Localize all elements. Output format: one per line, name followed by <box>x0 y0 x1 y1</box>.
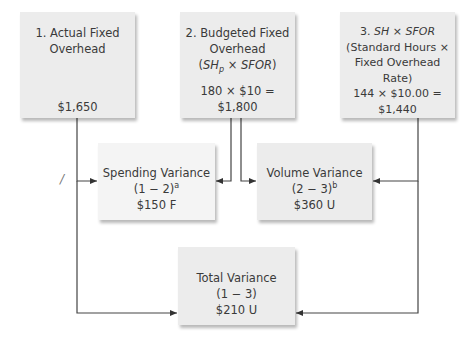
line-applied-to-volume <box>373 118 418 181</box>
line-budgeted-to-volume <box>241 118 256 181</box>
spending-title: Spending Variance <box>98 165 215 181</box>
slash-mark: / <box>60 172 64 186</box>
spending-formula: (1 − 2)a <box>98 181 215 197</box>
applied-title-sh: SH <box>374 25 389 38</box>
applied-desc-line1: (Standard Hours × <box>340 40 455 56</box>
volume-title: Volume Variance <box>257 165 372 181</box>
applied-amount: $1,440 <box>340 102 455 118</box>
budgeted-formula: (SHp × SFOR) <box>180 57 295 73</box>
actual-amount: $1,650 <box>20 99 135 115</box>
budgeted-formula-sh: SH <box>203 58 219 72</box>
applied-desc-line2: Fixed Overhead <box>340 55 455 71</box>
budgeted-title-line2: Overhead <box>180 41 295 57</box>
total-title: Total Variance <box>178 270 295 286</box>
applied-title-times: × <box>389 25 405 38</box>
volume-formula-text: (2 − 3) <box>292 182 333 196</box>
volume-amount: $360 U <box>257 197 372 213</box>
budgeted-calc: 180 × $10 = <box>180 83 295 99</box>
applied-title: 3. SH × SFOR <box>340 24 455 40</box>
total-variance-box: Total Variance (1 − 3) $210 U <box>178 247 295 325</box>
volume-footnote: b <box>332 181 337 190</box>
budgeted-amount: $1,800 <box>180 99 295 115</box>
actual-fixed-overhead-box: 1. Actual Fixed Overhead $1,650 <box>20 12 135 118</box>
line-budgeted-to-spending <box>216 118 231 181</box>
actual-title-line1: 1. Actual Fixed <box>20 25 135 41</box>
spending-amount: $150 F <box>98 197 215 213</box>
spending-variance-box: Spending Variance (1 − 2)a $150 F <box>98 143 215 220</box>
actual-title-line2: Overhead <box>20 41 135 57</box>
budgeted-formula-sfor: SFOR <box>241 58 272 72</box>
applied-title-num: 3. <box>360 25 374 38</box>
budgeted-title-line1: 2. Budgeted Fixed <box>180 25 295 41</box>
total-amount: $210 U <box>178 302 295 318</box>
applied-fixed-overhead-box: 3. SH × SFOR (Standard Hours × Fixed Ove… <box>340 12 455 118</box>
budgeted-fixed-overhead-box: 2. Budgeted Fixed Overhead (SHp × SFOR) … <box>180 12 295 118</box>
budgeted-formula-times: × <box>224 58 241 72</box>
spending-footnote: a <box>174 181 179 190</box>
line-actual-to-spending <box>77 118 97 181</box>
spending-formula-text: (1 − 2) <box>134 182 175 196</box>
applied-calc: 144 × $10.00 = <box>340 86 455 102</box>
applied-desc-line3: Rate) <box>340 71 455 87</box>
total-formula: (1 − 3) <box>178 286 295 302</box>
applied-title-sfor: SFOR <box>405 25 435 38</box>
volume-variance-box: Volume Variance (2 − 3)b $360 U <box>257 143 372 220</box>
volume-formula: (2 − 3)b <box>257 181 372 197</box>
